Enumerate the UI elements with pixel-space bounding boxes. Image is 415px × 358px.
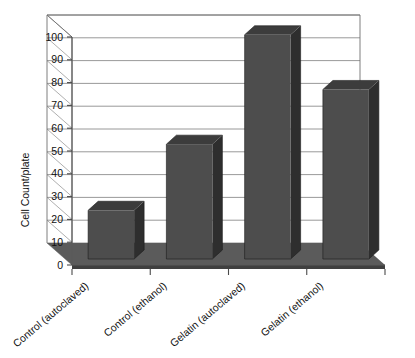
bar-column	[88, 201, 144, 259]
bar-front-face	[88, 210, 134, 259]
bar-column	[323, 80, 379, 259]
y-axis-title: Cell Count/plate	[19, 152, 31, 227]
bar-side-face	[212, 135, 222, 259]
bar-column	[166, 135, 222, 259]
y-axis-tick-label: 20	[51, 213, 63, 225]
y-axis-tick-label: 80	[51, 76, 63, 88]
y-axis-tick-label: 10	[51, 236, 63, 248]
bar-front-face	[245, 35, 291, 259]
chart-canvas: 0102030405060708090100 Cell Count/plate …	[0, 0, 415, 358]
floor-front-edge	[72, 265, 385, 269]
bar-column	[245, 26, 301, 259]
bar-side-face	[369, 80, 379, 259]
y-axis-tick-label: 60	[51, 122, 63, 134]
y-axis-title-text: Cell Count/plate	[19, 152, 31, 227]
bar-chart: 0102030405060708090100 Cell Count/plate …	[0, 0, 415, 358]
y-axis-tick-label: 100	[45, 31, 63, 43]
y-axis-tick-label: 50	[51, 145, 63, 157]
y-axis-tick-label: 40	[51, 167, 63, 179]
y-axis-tick-label: 0	[57, 259, 63, 271]
y-axis-tick-label: 70	[51, 99, 63, 111]
bar-front-face	[323, 89, 369, 259]
bar-side-face	[134, 201, 144, 259]
bar-side-face	[291, 26, 301, 259]
y-axis-tick-label: 30	[51, 190, 63, 202]
y-axis-tick-label: 90	[51, 53, 63, 65]
bar-front-face	[166, 144, 212, 259]
